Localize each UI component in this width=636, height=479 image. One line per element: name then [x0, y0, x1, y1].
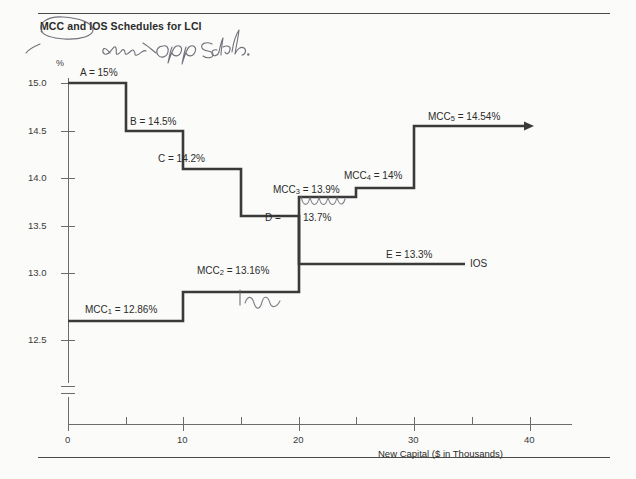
x-tick-label-30: 30: [408, 435, 419, 445]
annotation-mcc1-subscript: 1: [108, 307, 112, 316]
y-tick-label-14-0: 14.0: [28, 173, 47, 183]
annotation-mcc2: MCC2 = 13.16%: [197, 266, 269, 277]
x-tick-label-10: 10: [177, 435, 188, 445]
annotation-mcc1-value: = 12.86%: [115, 304, 158, 315]
annotation-mcc4: MCC4 = 14%: [344, 171, 402, 182]
annotation-b: B = 14.5%: [130, 117, 176, 127]
annotation-mcc5-subscript: 5: [451, 114, 455, 123]
annotation-mcc5: MCC5 = 14.54%: [428, 112, 500, 123]
annotation-mcc2-value: = 13.16%: [227, 265, 270, 276]
annotation-mcc1-name: MCC: [85, 304, 108, 315]
y-tick-label-13-5: 13.5: [28, 221, 47, 231]
mcc-arrowhead-icon: [524, 122, 534, 131]
x-tick-label-40: 40: [524, 435, 535, 445]
ios-series-label: IOS: [470, 259, 487, 269]
annotation-mcc4-subscript: 4: [367, 173, 371, 182]
annotation-mcc4-value: = 14%: [374, 170, 403, 181]
y-axis-unit-label: %: [56, 58, 64, 68]
annotation-e: E = 13.3%: [386, 250, 432, 260]
ios-step-line: [68, 83, 465, 264]
annotation-mcc3-value: = 13.9%: [303, 184, 340, 195]
annotation-c: C = 14.2%: [158, 154, 205, 164]
y-tick-label-15-0: 15.0: [28, 78, 47, 88]
annotation-d-prefix: D =: [265, 213, 281, 223]
annotation-mcc3-name: MCC: [273, 184, 296, 195]
x-axis-title: New Capital ($ in Thousands): [378, 448, 503, 459]
y-tick-label-14-5: 14.5: [28, 126, 47, 136]
annotation-mcc2-name: MCC: [197, 265, 220, 276]
annotation-mcc3-subscript: 3: [296, 187, 300, 196]
annotation-a: A = 15%: [80, 68, 118, 78]
annotation-d-value: 13.7%: [303, 213, 331, 223]
y-tick-label-13-0: 13.0: [28, 268, 47, 278]
x-tick-label-0: 0: [65, 435, 70, 445]
annotation-mcc2-subscript: 2: [220, 268, 224, 277]
mcc-step-line: [68, 126, 527, 321]
annotation-mcc3: MCC3 = 13.9%: [273, 185, 340, 196]
annotation-mcc4-name: MCC: [344, 170, 367, 181]
annotation-mcc5-value: = 14.54%: [458, 111, 501, 122]
annotation-mcc5-name: MCC: [428, 111, 451, 122]
annotation-mcc1: MCC1 = 12.86%: [85, 305, 157, 316]
y-tick-label-12-5: 12.5: [28, 335, 47, 345]
figure-page: MCC and IOS Schedules for LCI: [0, 0, 636, 479]
x-tick-label-20: 20: [293, 435, 304, 445]
